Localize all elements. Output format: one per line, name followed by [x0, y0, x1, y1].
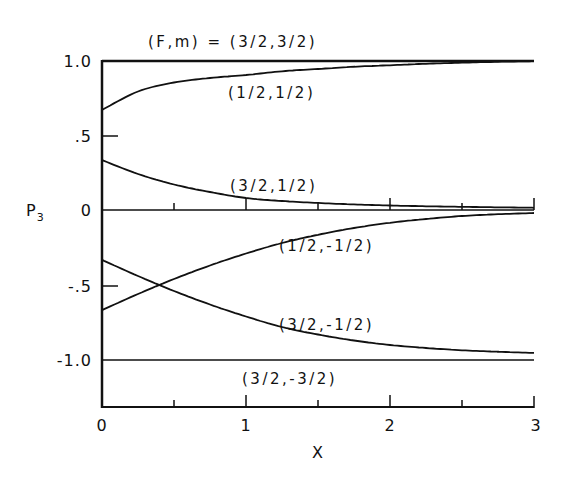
ytick-1: 1.0: [64, 52, 92, 71]
ytick-0: 0: [81, 201, 92, 220]
xtick-1: 1: [240, 416, 251, 435]
x-axis-label: X: [312, 443, 324, 462]
x-axis-ticks: [174, 395, 462, 407]
chart: 1.0 .5 0 -.5 -1.0 0 1 2 3 X P3 (F,m) = (…: [0, 0, 561, 481]
label-3-2-minus-1-2: (3/2,-1/2): [279, 316, 374, 334]
curve-3-2-minus-1-2: [102, 260, 534, 353]
y-axis-label-sub: 3: [37, 211, 45, 224]
ytick-05: .5: [75, 127, 92, 146]
title-label: (F,m) = (3/2,3/2): [148, 33, 317, 51]
curve-1-2-plus-1-2: [102, 61, 534, 110]
label-3-2-minus-3-2: (3/2,-3/2): [242, 370, 337, 388]
label-1-2-minus-1-2: (1/2,-1/2): [279, 237, 374, 255]
curve-3-2-plus-1-2: [102, 160, 534, 208]
y-axis-label: P3: [26, 201, 45, 224]
xtick-3: 3: [530, 416, 541, 435]
y-axis-label-main: P: [26, 201, 37, 220]
label-3-2-plus-1-2: (3/2,1/2): [230, 177, 317, 195]
ytick-m1: -1.0: [57, 351, 92, 370]
label-1-2-plus-1-2: (1/2,1/2): [228, 84, 315, 102]
xtick-2: 2: [384, 416, 395, 435]
ytick-m05: -.5: [68, 277, 92, 296]
xtick-0: 0: [96, 416, 107, 435]
curve-1-2-minus-1-2: [102, 213, 534, 310]
